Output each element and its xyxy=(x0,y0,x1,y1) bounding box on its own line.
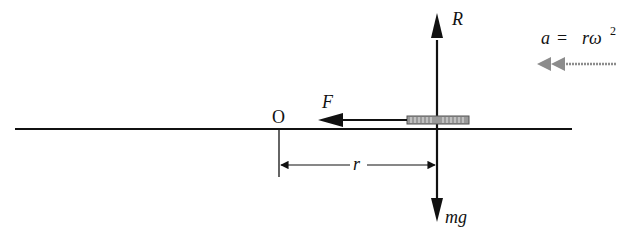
radius-label: r xyxy=(353,154,361,174)
friction-arrowhead-icon xyxy=(318,113,343,127)
reaction-arrowhead-icon xyxy=(431,13,443,38)
friction-label: F xyxy=(321,92,334,112)
bead xyxy=(407,116,469,124)
acceleration-equation: a = rω 2 xyxy=(541,24,616,48)
svg-text:a: a xyxy=(541,28,550,48)
svg-text:rω: rω xyxy=(582,28,602,48)
reaction-label: R xyxy=(451,9,463,29)
acceleration-double-arrow-icon xyxy=(537,57,616,71)
weight-label: mg xyxy=(445,207,467,227)
weight-arrowhead-icon xyxy=(431,198,443,222)
svg-text:=: = xyxy=(557,28,567,48)
diagram-canvas: O R mg F r a = rω 2 xyxy=(0,0,626,233)
origin-label: O xyxy=(272,107,285,127)
svg-text:2: 2 xyxy=(610,24,616,38)
